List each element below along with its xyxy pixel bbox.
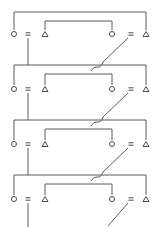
triangle-terminal-icon [42,197,48,202]
triangle-terminal-icon [42,32,48,37]
circle-terminal-icon [12,32,17,37]
circle-terminal-icon [110,32,115,37]
outer-bracket-wire [14,175,146,195]
triangle-terminal-icon [143,142,149,147]
switch-ladder-diagram [0,0,160,227]
inner-bracket-wire [45,184,112,195]
triangle-terminal-icon [143,197,149,202]
circle-terminal-icon [110,197,115,202]
inner-bracket-wire [45,21,112,30]
circle-terminal-icon [12,142,17,147]
circle-terminal-icon [12,197,17,202]
outer-bracket-wire [14,65,146,85]
diagonal-switch-icon [91,93,128,126]
diagonal-switch-icon [91,38,128,71]
circle-terminal-icon [12,87,17,92]
inner-bracket-wire [45,129,112,140]
circle-terminal-icon [110,142,115,147]
inner-bracket-wire [45,74,112,85]
triangle-terminal-icon [42,142,48,147]
triangle-terminal-icon [143,32,149,37]
triangle-terminal-icon [143,87,149,92]
diagonal-switch-icon [108,203,128,226]
circle-terminal-icon [110,87,115,92]
diagonal-switch-icon [91,148,128,181]
outer-bracket-wire [14,120,146,140]
triangle-terminal-icon [42,87,48,92]
